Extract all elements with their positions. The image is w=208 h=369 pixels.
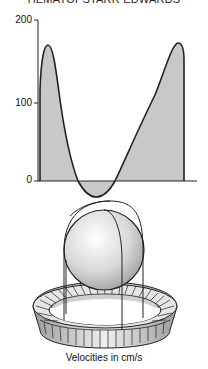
valve-ball — [64, 210, 144, 290]
caption: Velocities in cm/s — [0, 352, 208, 363]
chart-and-valve-figure — [0, 0, 208, 369]
y-axis — [34, 20, 38, 181]
valve-illustration — [33, 201, 177, 348]
velocity-area — [40, 43, 184, 197]
